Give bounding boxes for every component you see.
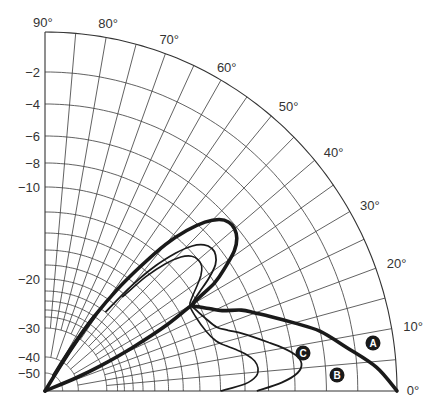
db-label: −50 [18, 366, 40, 381]
db-label: −2 [25, 65, 40, 80]
grid-spoke [107, 360, 396, 386]
badge-letter: B [333, 370, 340, 381]
db-label: −8 [25, 156, 40, 171]
db-label: −10 [18, 180, 40, 195]
angle-label: 60° [217, 60, 237, 75]
grid-spoke [61, 44, 136, 330]
db-tick-labels: −2−4−6−8−10−20−30−40−50 [18, 65, 40, 381]
angle-label: 40° [324, 145, 344, 160]
polar-radiation-chart: 90°80°70°60°50°40°30°20°10°0° −2−4−6−8−1… [0, 0, 435, 412]
badge-b: B [330, 368, 345, 383]
angle-label: 50° [279, 99, 299, 114]
angle-label: 0° [407, 383, 419, 398]
db-label: −20 [18, 272, 40, 287]
badge-c: C [296, 346, 311, 361]
badge-letter: C [299, 348, 306, 359]
grid-spoke [50, 33, 75, 328]
pattern-curves [45, 220, 397, 392]
angle-tick-labels: 90°80°70°60°50°40°30°20°10°0° [33, 15, 423, 398]
db-label: −40 [18, 350, 40, 365]
angle-label: 80° [98, 16, 118, 31]
angle-label: 70° [159, 32, 179, 47]
angle-label: 10° [403, 319, 423, 334]
grid-spoke [71, 66, 194, 334]
db-label: −6 [25, 129, 40, 144]
grid-spoke [78, 329, 392, 385]
db-label: −30 [18, 321, 40, 336]
angle-label: 30° [360, 198, 380, 213]
angle-label: 20° [387, 256, 407, 271]
grid-spoke [96, 185, 334, 355]
badge-a: A [366, 336, 381, 351]
grid-spokes [45, 32, 397, 391]
grid-spoke [56, 54, 165, 359]
angle-label: 90° [33, 15, 53, 30]
badge-letter: A [369, 338, 376, 349]
db-label: −4 [25, 97, 40, 112]
